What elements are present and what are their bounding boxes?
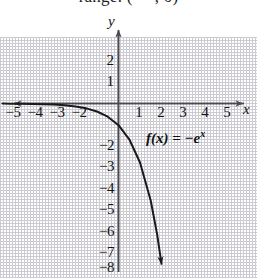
x-tick--4: −4 (24, 104, 46, 121)
y-tick-2: 2 (100, 52, 114, 69)
function-curve (2, 104, 161, 264)
y-tick--6: −6 (92, 223, 114, 240)
y-tick--8: −8 (92, 259, 114, 276)
x-tick-4: 4 (196, 104, 214, 121)
function-equation-label: f(x) = −ex (146, 128, 205, 147)
x-tick--3: −3 (46, 104, 68, 121)
graph-figure: range: (−∞, 0) (0, 0, 257, 278)
function-equation-text: f(x) = −e (146, 130, 200, 146)
function-exponent: x (200, 128, 205, 139)
y-tick--3: −3 (92, 158, 114, 175)
axes-and-curve-layer (0, 0, 257, 278)
y-tick-1: 1 (100, 73, 114, 90)
x-axis-label: x (243, 101, 250, 118)
x-tick-5: 5 (218, 104, 236, 121)
x-tick--2: −2 (68, 104, 90, 121)
y-axis-label: y (108, 13, 115, 30)
y-tick--4: −4 (92, 180, 114, 197)
x-tick-3: 3 (174, 104, 192, 121)
y-tick--2: −2 (92, 137, 114, 154)
y-tick--5: −5 (92, 201, 114, 218)
x-tick-2: 2 (152, 104, 170, 121)
x-tick--5: −5 (2, 104, 24, 121)
x-tick-1: 1 (130, 104, 148, 121)
